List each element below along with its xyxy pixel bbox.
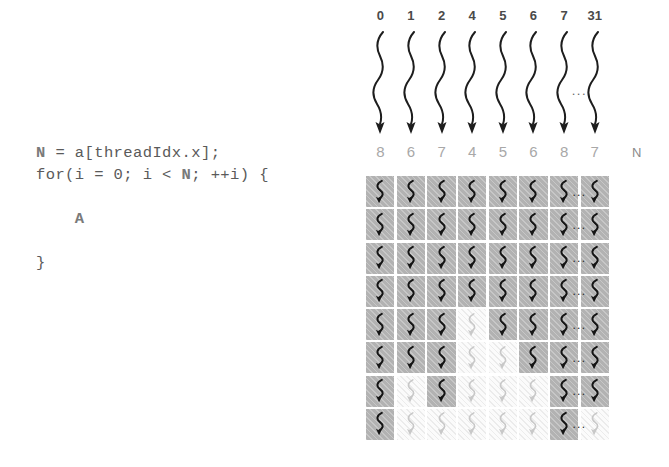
grid-cell-active: [366, 176, 394, 207]
grid-cell-inactive: [458, 342, 486, 373]
grid-cell-active: [550, 176, 578, 207]
grid-cell-active: [550, 243, 578, 274]
n-value: 8: [560, 143, 568, 160]
grid-cell-active: [489, 209, 517, 240]
thread-id-label: 2: [438, 8, 445, 23]
grid-cell-active: [489, 276, 517, 307]
grid-cell-active: [550, 342, 578, 373]
grid-cell-active: [458, 176, 486, 207]
wavy-down-arrow-icon: [461, 28, 483, 138]
grid-cell-inactive: [519, 376, 547, 407]
code-identifier: N: [182, 166, 192, 184]
wavy-down-arrow-icon: [400, 28, 422, 138]
code-identifier: A: [75, 210, 85, 228]
grid-cell-active: [550, 376, 578, 407]
grid-cell-active: [427, 376, 455, 407]
grid-cell-inactive: [489, 342, 517, 373]
grid-cell-active: [581, 342, 609, 373]
grid-cell-active: [581, 309, 609, 340]
n-value-row: 86745687: [365, 143, 610, 167]
grid-cell-active: [519, 309, 547, 340]
grid-cell-active: [519, 276, 547, 307]
cuda-code-block: N = a[threadIdx.x];for(i = 0; i < N; ++i…: [36, 142, 269, 274]
grid-cell-active: [519, 176, 547, 207]
grid-cell-active: [519, 342, 547, 373]
grid-cell-active: [427, 176, 455, 207]
grid-cell-active: [458, 243, 486, 274]
grid-cell-active: [427, 243, 455, 274]
n-row-label: N: [632, 145, 641, 160]
grid-cell-active: [550, 409, 578, 440]
n-value: 5: [499, 143, 507, 160]
n-value: 4: [468, 143, 476, 160]
grid-cell-active: [458, 209, 486, 240]
thread-id-label: 5: [499, 8, 506, 23]
n-value: 7: [591, 143, 599, 160]
code-text: = a[threadIdx.x];: [46, 144, 221, 162]
grid-cell-active: [581, 376, 609, 407]
code-text: for(i = 0; i <: [36, 166, 182, 184]
grid-cell-inactive: [581, 409, 609, 440]
grid-cell-active: [366, 309, 394, 340]
grid-cell-inactive: [397, 409, 425, 440]
grid-cell-active: [397, 243, 425, 274]
grid-cell-inactive: [519, 409, 547, 440]
thread-id-label: 0: [377, 8, 384, 23]
grid-cell-active: [581, 209, 609, 240]
n-value: 6: [529, 143, 537, 160]
diagram-canvas: N = a[threadIdx.x];for(i = 0; i < N; ++i…: [0, 0, 669, 467]
grid-cell-active: [366, 376, 394, 407]
grid-cell-active: [397, 176, 425, 207]
grid-cell-inactive: [489, 409, 517, 440]
grid-cell-active: [519, 209, 547, 240]
grid-cell-active: [366, 409, 394, 440]
grid-cell-active: [550, 209, 578, 240]
thread-id-label: 1: [407, 8, 414, 23]
grid-cell-active: [489, 176, 517, 207]
code-text: [36, 210, 75, 228]
grid-cell-active: [366, 276, 394, 307]
grid-cell-active: [519, 243, 547, 274]
n-value: 8: [376, 143, 384, 160]
grid-cell-inactive: [489, 376, 517, 407]
code-line: for(i = 0; i < N; ++i) {: [36, 164, 269, 186]
grid-cell-inactive: [458, 309, 486, 340]
thread-id-label: 31: [587, 8, 601, 23]
grid-cell-active: [550, 309, 578, 340]
header-ellipsis: ...: [572, 83, 587, 98]
code-line: [36, 186, 269, 208]
n-value: 7: [437, 143, 445, 160]
grid-cell-active: [581, 243, 609, 274]
wavy-down-arrow-icon: [522, 28, 544, 138]
grid-cell-active: [581, 276, 609, 307]
grid-cell-active: [397, 276, 425, 307]
grid-cell-active: [489, 309, 517, 340]
grid-cell-active: [397, 342, 425, 373]
execution-grid: ........................: [365, 175, 610, 441]
grid-cell-active: [366, 243, 394, 274]
grid-cell-inactive: [427, 409, 455, 440]
grid-cell-active: [489, 243, 517, 274]
code-line: [36, 230, 269, 252]
grid-cell-active: [427, 309, 455, 340]
wavy-down-arrow-icon: [492, 28, 514, 138]
grid-cell-active: [427, 209, 455, 240]
grid-cell-active: [366, 342, 394, 373]
grid-cell-active: [581, 176, 609, 207]
code-line: N = a[threadIdx.x];: [36, 142, 269, 164]
thread-id-label: 6: [530, 8, 537, 23]
grid-cell-active: [427, 276, 455, 307]
n-value: 6: [407, 143, 415, 160]
thread-id-header-row: 012456731: [365, 8, 610, 30]
code-text: ; ++i) {: [191, 166, 269, 184]
grid-cell-active: [550, 276, 578, 307]
grid-cell-active: [366, 209, 394, 240]
thread-arrow-row: ...: [365, 28, 610, 138]
grid-cell-active: [397, 209, 425, 240]
grid-cell-inactive: [397, 376, 425, 407]
wavy-down-arrow-icon: [369, 28, 391, 138]
grid-cell-inactive: [458, 376, 486, 407]
wavy-down-arrow-icon: [431, 28, 453, 138]
code-text: }: [36, 254, 46, 272]
grid-cell-active: [427, 342, 455, 373]
